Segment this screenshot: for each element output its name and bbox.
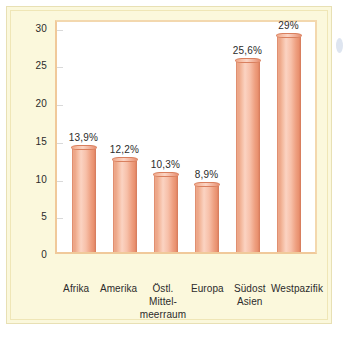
bar-body [113, 161, 137, 252]
bar-top-cap [71, 145, 97, 150]
bar-value-label: 13,9% [69, 132, 98, 143]
x-axis-category-label: Südost Asien [229, 282, 271, 321]
bar[interactable]: 25,6% [236, 62, 260, 252]
x-axis-category-label: Amerika [97, 282, 139, 321]
bar-top-cap [194, 182, 220, 187]
x-axis-category-label: Östl. Mittel- meerraum [140, 282, 186, 321]
bar-slot: 13,9% [63, 22, 104, 252]
bar-value-label: 12,2% [110, 144, 139, 155]
x-axis-category-label: Westpazifik [271, 282, 323, 321]
x-axis-category-labels: AfrikaAmerikaÖstl. Mittel- meerraumEurop… [55, 282, 323, 321]
bar-top-cap [235, 58, 261, 63]
bars-container: 13,9%12,2%10,3%8,9%25,6%29% [57, 22, 315, 252]
y-axis-tick-label: 15 [35, 135, 47, 146]
bar-value-label: 8,9% [195, 169, 219, 180]
y-axis-tick-label: 25 [35, 60, 47, 71]
y-axis: 051015202530 [21, 14, 51, 276]
bar-value-label: 29% [278, 20, 299, 31]
plot-wrapper: 051015202530 13,9%12,2%10,3%8,9%25,6%29% [21, 14, 317, 276]
bar-slot: 8,9% [186, 22, 227, 252]
bar-body [195, 186, 219, 252]
y-axis-tick-label: 10 [35, 173, 47, 184]
page-edge-artifact [336, 38, 343, 53]
bar[interactable]: 10,3% [154, 176, 178, 252]
bar-slot: 12,2% [104, 22, 145, 252]
y-axis-tick-label: 30 [35, 22, 47, 33]
bar-slot: 25,6% [227, 22, 268, 252]
y-axis-tick-label: 5 [41, 211, 47, 222]
bar-value-label: 10,3% [151, 159, 180, 170]
x-axis-category-label: Europa [186, 282, 228, 321]
bar-slot: 10,3% [145, 22, 186, 252]
bar[interactable]: 12,2% [113, 161, 137, 252]
bar[interactable]: 8,9% [195, 186, 219, 252]
plot-area: 13,9%12,2%10,3%8,9%25,6%29% [55, 20, 317, 254]
y-axis-tick-label: 0 [41, 249, 47, 260]
bar-body [236, 62, 260, 252]
bar-slot: 29% [268, 22, 309, 252]
bar-top-cap [276, 33, 302, 38]
bar-value-label: 25,6% [233, 45, 262, 56]
bar-body [72, 149, 96, 252]
bar[interactable]: 29% [277, 37, 301, 252]
bar[interactable]: 13,9% [72, 149, 96, 252]
bar-chart-figure: 051015202530 13,9%12,2%10,3%8,9%25,6%29%… [0, 0, 344, 339]
bar-top-cap [112, 157, 138, 162]
bar-top-cap [153, 172, 179, 177]
bar-body [154, 176, 178, 252]
y-axis-tick-label: 20 [35, 98, 47, 109]
x-axis-category-label: Afrika [55, 282, 97, 321]
bar-body [277, 37, 301, 252]
